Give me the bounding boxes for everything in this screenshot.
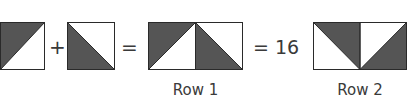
row-1-tiles [148,22,243,70]
tile-b-bottom-left-shaded [67,22,115,70]
row-2-tiles [313,22,407,70]
row-1-pattern-icon [148,22,243,70]
half-square-triangle-icon [67,22,115,70]
half-square-triangle-icon [0,22,45,70]
equals-operator: = [121,35,138,59]
result-count: = 16 [253,34,299,60]
tile-a-top-left-shaded [0,22,45,70]
row-2-pattern-icon [313,22,407,70]
row-1-label: Row 1 [148,80,243,100]
row-2-label: Row 2 [313,80,407,100]
plus-operator: + [49,35,66,59]
